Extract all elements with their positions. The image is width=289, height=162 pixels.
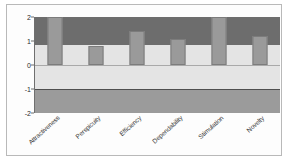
x-label-slot: Novelty bbox=[239, 113, 280, 161]
bar-slot bbox=[198, 17, 239, 113]
x-label-slot: Attractiveness bbox=[34, 113, 75, 161]
x-label-slot: Efficiency bbox=[116, 113, 157, 161]
y-axis: 210-1-2 bbox=[13, 17, 34, 113]
x-tick-label-stimulation: Stimulation bbox=[196, 114, 224, 140]
x-tick-label-novelty: Novelty bbox=[245, 114, 265, 133]
x-label-slot: Dependability bbox=[157, 113, 198, 161]
plot-area bbox=[34, 17, 280, 113]
x-label-slot: Perspicuity bbox=[75, 113, 116, 161]
x-tick-label-perspicuity: Perspicuity bbox=[74, 114, 102, 140]
bar-stimulation[interactable] bbox=[211, 17, 226, 65]
bar-efficiency[interactable] bbox=[130, 31, 145, 65]
bar-novelty[interactable] bbox=[252, 36, 267, 65]
x-tick-label-efficiency: Efficiency bbox=[117, 114, 142, 137]
figure-frame: 210-1-2 AttractivenessPerspicuityEfficie… bbox=[6, 4, 282, 156]
x-axis: AttractivenessPerspicuityEfficiencyDepen… bbox=[34, 113, 280, 161]
bar-slot bbox=[76, 17, 117, 113]
x-label-slot: Stimulation bbox=[198, 113, 239, 161]
chart-figure: 210-1-2 AttractivenessPerspicuityEfficie… bbox=[0, 0, 289, 162]
bar-slot bbox=[239, 17, 280, 113]
bar-dependability[interactable] bbox=[170, 39, 185, 65]
bar-group bbox=[35, 17, 280, 113]
bar-slot bbox=[117, 17, 158, 113]
bar-slot bbox=[35, 17, 76, 113]
bar-attractiveness[interactable] bbox=[48, 17, 63, 65]
bar-perspicuity[interactable] bbox=[89, 46, 104, 65]
x-tick-label-attractiveness: Attractiveness bbox=[26, 114, 60, 146]
bar-slot bbox=[157, 17, 198, 113]
